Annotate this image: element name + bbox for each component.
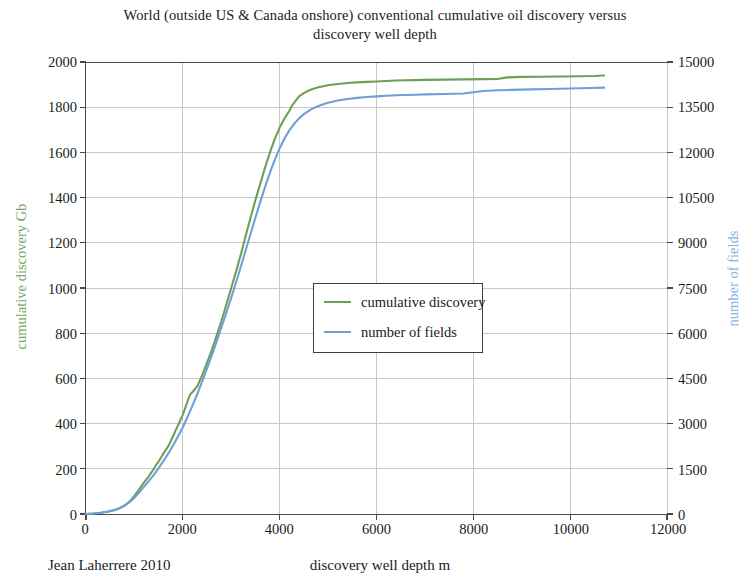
y-axis-left-tick-label: 200 — [55, 461, 77, 478]
x-axis-title: discovery well depth m — [230, 557, 530, 574]
legend-entry-cumulative-discovery: cumulative discovery — [324, 292, 485, 312]
y-axis-left-tick-label: 1400 — [48, 189, 77, 206]
y-axis-left-ticks: 0200400600800100012001400160018002000 — [20, 62, 77, 515]
legend-entry-label: number of fields — [361, 324, 457, 341]
x-axis-ticks: 020004000600080001000012000 — [85, 521, 668, 543]
chart-title: World (outside US & Canada onshore) conv… — [70, 6, 680, 44]
x-axis-tick-label: 10000 — [553, 521, 589, 538]
y-axis-right-tick-label: 1500 — [678, 461, 707, 478]
y-axis-left-tick-label: 600 — [55, 371, 77, 388]
x-axis-tick-label: 2000 — [168, 521, 197, 538]
y-axis-left-tick-label: 1600 — [48, 144, 77, 161]
y-axis-right-tick-label: 13500 — [678, 99, 714, 116]
x-axis-tick-label: 0 — [81, 521, 88, 538]
chart-title-line-2: discovery well depth — [313, 26, 437, 42]
y-axis-left-tick-label: 0 — [70, 507, 77, 524]
chart-title-line-1: World (outside US & Canada onshore) conv… — [124, 7, 627, 23]
y-axis-right-tick-label: 4500 — [678, 371, 707, 388]
legend-entry-number-of-fields: number of fields — [324, 322, 457, 342]
x-axis-tick-label: 6000 — [362, 521, 391, 538]
chart-figure: World (outside US & Canada onshore) conv… — [0, 0, 745, 585]
y-axis-right-tick-label: 12000 — [678, 144, 714, 161]
legend-entry-label: cumulative discovery — [361, 294, 485, 311]
y-axis-left-tick-label: 400 — [55, 416, 77, 433]
x-axis-tick-label: 8000 — [459, 521, 488, 538]
y-axis-right-tick-label: 10500 — [678, 189, 714, 206]
chart-legend: cumulative discovery number of fields — [313, 283, 483, 353]
y-axis-right-tick-label: 9000 — [678, 235, 707, 252]
y-axis-right-tick-label: 3000 — [678, 416, 707, 433]
y-axis-left-tick-label: 800 — [55, 325, 77, 342]
x-axis-tick-label: 4000 — [265, 521, 294, 538]
legend-color-swatch — [324, 301, 351, 303]
y-axis-right-tick-label: 15000 — [678, 54, 714, 71]
y-axis-left-tick-label: 1200 — [48, 235, 77, 252]
legend-color-swatch — [324, 331, 351, 333]
y-axis-left-tick-label: 1800 — [48, 99, 77, 116]
y-axis-left-tick-label: 1000 — [48, 280, 77, 297]
y-axis-right-tick-label: 7500 — [678, 280, 707, 297]
author-credit: Jean Laherrere 2010 — [48, 557, 170, 574]
y-axis-right-tick-label: 6000 — [678, 325, 707, 342]
x-axis-tick-label: 12000 — [650, 521, 686, 538]
y-axis-right-ticks: 0150030004500600075009000105001200013500… — [678, 62, 740, 515]
y-axis-left-tick-label: 2000 — [48, 54, 77, 71]
